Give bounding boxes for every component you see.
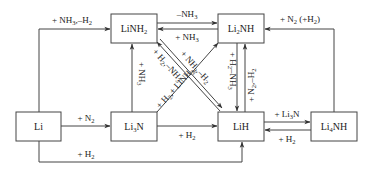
label-vert-h2-nh3: + H2–NH3 [227,52,238,90]
reaction-diagram: LiNH2 Li2NH Li Li3N LiH Li4NH + NH3,–H2 … [0,0,370,175]
label-plus-nh3-top: + NH3 [175,32,199,43]
label-plus-h2-li4nh: + H2 [278,134,295,145]
edge-li4nh-to-li2nh [265,29,334,112]
svg-text:Li2NH: Li2NH [228,23,255,35]
label-minus-nh3: –NH3 [176,9,198,20]
label-n2-h2: + N2 (+H2) [280,14,320,25]
svg-text:LiNH2: LiNH2 [121,23,148,35]
label-plus-h2-bottom: + H2 [77,149,94,160]
edge-li-to-linh2 [39,29,110,112]
node-li3n: Li3N [111,112,157,141]
label-li-linh2: + NH3,–H2 [52,15,92,26]
node-linh2: LiNH2 [111,14,157,43]
node-li: Li [16,112,61,141]
svg-text:LiH: LiH [233,121,249,132]
label-plus-h2-li3n-lih: + H2 [178,130,195,141]
label-plus-li3n: + Li3N [274,109,300,120]
label-vert-n2-h2: + N2,–H2 [246,68,257,102]
svg-text:Li4NH: Li4NH [321,121,348,133]
node-li4nh: Li4NH [311,112,357,141]
node-lih: LiH [218,112,264,141]
edge-li-to-lih [39,141,242,162]
svg-text:Li: Li [34,121,43,132]
label-plus-n2: + N2 [77,113,94,124]
node-li2nh: Li2NH [218,14,264,43]
label-vert-nh3: + NH3 [136,62,147,86]
